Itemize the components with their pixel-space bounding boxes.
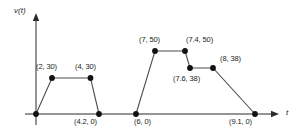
marker-4-30	[88, 75, 94, 81]
marker-9p1-0	[252, 111, 258, 117]
curve-segment-1	[36, 78, 99, 114]
marker-7p4-50	[182, 48, 188, 54]
point-label-4-30: (4, 30)	[75, 63, 96, 71]
y-axis-label: v(t)	[14, 6, 26, 15]
point-label-7-50: (7, 50)	[139, 36, 160, 44]
velocity-time-graph-figure: v(t) t (2, 30) (4, 30) (4.2, 0) (6, 0) (…	[0, 0, 296, 134]
marker-2-30	[49, 75, 55, 81]
point-label-8-38: (8, 38)	[220, 55, 241, 63]
point-label-2-30: (2, 30)	[36, 63, 57, 71]
marker-origin	[33, 111, 39, 117]
point-label-9p1-0: (9.1, 0)	[229, 118, 252, 126]
marker-7-50	[152, 48, 158, 54]
point-label-4p2-0: (4.2, 0)	[74, 118, 97, 126]
marker-8-38	[210, 65, 216, 71]
point-label-7p4-50: (7.4, 50)	[186, 36, 213, 44]
x-axis-label: t	[286, 108, 288, 117]
point-label-6-0: (6, 0)	[134, 118, 151, 126]
marker-7p6-38	[187, 65, 193, 71]
point-label-7p6-38: (7.6, 38)	[173, 75, 200, 83]
